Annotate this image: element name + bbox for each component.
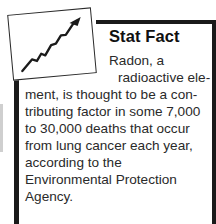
rising-trend-arrow-graphic	[8, 8, 95, 79]
rising-trend-chart-icon	[7, 7, 97, 80]
body-line: Environmental Protection	[0, 171, 216, 188]
body-line: from lung cancer each year,	[0, 137, 216, 154]
callout-title: Stat Fact	[109, 27, 180, 46]
body-line: to 30,000 deaths that occur	[0, 120, 216, 137]
body-line: tributing factor in some 7,000	[0, 103, 216, 120]
body-line: Agency.	[0, 188, 216, 205]
body-line: according to the	[0, 154, 216, 171]
callout-top-rule	[96, 20, 216, 24]
body-line: ment, is thought to be a con-	[0, 86, 216, 103]
stat-fact-callout: Stat Fact Radon, a radioactive ele- ment…	[0, 0, 216, 224]
